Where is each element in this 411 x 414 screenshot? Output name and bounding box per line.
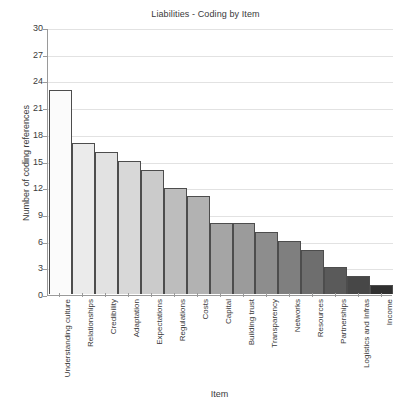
bar-slot	[210, 28, 233, 294]
x-tick-mark	[220, 293, 221, 297]
x-tick-mark	[105, 293, 106, 297]
y-tick-label: 12	[7, 184, 43, 193]
bar-slot	[49, 28, 72, 294]
y-axis-tick-labels: 036912151821242730	[0, 29, 43, 296]
bar-slot	[164, 28, 187, 294]
x-tick-mark	[151, 293, 152, 297]
bar-slot	[233, 28, 256, 294]
y-tick-label: 21	[7, 104, 43, 113]
x-label-slot: Understanding culture	[48, 297, 71, 387]
bar[interactable]	[95, 152, 118, 294]
y-tick-mark	[43, 296, 47, 297]
y-tick-label: 24	[7, 77, 43, 86]
bar[interactable]	[301, 250, 324, 294]
x-tick-mark	[289, 293, 290, 297]
bar[interactable]	[118, 161, 141, 294]
x-tick-mark	[59, 293, 60, 297]
x-tick-mark	[312, 293, 313, 297]
bar-slot	[72, 28, 95, 294]
x-label-slot: Networks	[277, 297, 300, 387]
x-tick-mark	[243, 293, 244, 297]
x-label-slot: Capital	[209, 297, 232, 387]
bar[interactable]	[233, 223, 256, 294]
bar-slot	[370, 28, 393, 294]
x-tick-mark	[174, 293, 175, 297]
bar[interactable]	[72, 143, 95, 294]
bar[interactable]	[49, 90, 72, 294]
x-tick-mark	[266, 293, 267, 297]
bar-chart: Liabilities - Coding by Item Number of c…	[0, 0, 411, 414]
x-label-slot: Expectations	[140, 297, 163, 387]
bar-slot	[95, 28, 118, 294]
bar-slot	[347, 28, 370, 294]
plot-area	[47, 29, 392, 296]
bar-slot	[324, 28, 347, 294]
y-tick-label: 30	[7, 24, 43, 33]
bar[interactable]	[347, 276, 370, 294]
x-label-slot: Relationships	[71, 297, 94, 387]
bar-slot	[255, 28, 278, 294]
x-label-slot: Logistics and Infras	[346, 297, 369, 387]
y-tick-label: 18	[7, 131, 43, 140]
bar[interactable]	[164, 188, 187, 294]
x-label-slot: Building trust	[232, 297, 255, 387]
x-label-slot: Credibility	[94, 297, 117, 387]
x-label-slot: Costs	[186, 297, 209, 387]
bar[interactable]	[370, 285, 393, 294]
chart-title: Liabilities - Coding by Item	[0, 9, 411, 19]
x-label-slot: Adaptation	[117, 297, 140, 387]
bar-slot	[141, 28, 164, 294]
x-axis-title: Item	[47, 389, 392, 399]
bar[interactable]	[141, 170, 164, 294]
bar[interactable]	[210, 223, 233, 294]
y-tick-label: 6	[7, 238, 43, 247]
x-label-slot: Resources	[300, 297, 323, 387]
bar-series	[49, 28, 393, 294]
x-tick-mark	[358, 293, 359, 297]
x-label-slot: Regulations	[163, 297, 186, 387]
x-tick-mark	[82, 293, 83, 297]
bar[interactable]	[278, 241, 301, 294]
bar-slot	[118, 28, 141, 294]
y-tick-label: 0	[7, 291, 43, 300]
bar[interactable]	[187, 196, 210, 294]
bar-slot	[301, 28, 324, 294]
bar-slot	[278, 28, 301, 294]
x-label-slot: Income	[369, 297, 392, 387]
y-tick-label: 3	[7, 264, 43, 273]
x-axis-tick-labels: Understanding cultureRelationshipsCredib…	[48, 297, 392, 387]
y-tick-label: 15	[7, 158, 43, 167]
x-label-slot: Partnerships	[323, 297, 346, 387]
bar-slot	[187, 28, 210, 294]
x-tick-mark	[335, 293, 336, 297]
x-tick-mark	[197, 293, 198, 297]
x-tick-label: Income	[385, 299, 394, 325]
x-label-slot: Transparency	[254, 297, 277, 387]
y-tick-label: 9	[7, 211, 43, 220]
y-tick-label: 27	[7, 51, 43, 60]
x-tick-mark	[128, 293, 129, 297]
bar[interactable]	[324, 267, 347, 294]
bar[interactable]	[255, 232, 278, 294]
x-tick-mark	[381, 293, 382, 297]
